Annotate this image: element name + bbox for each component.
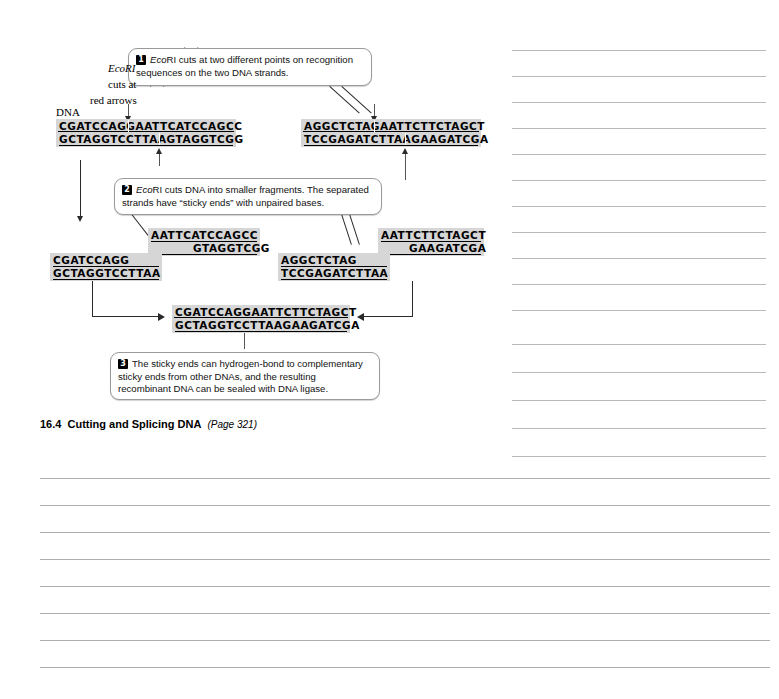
strand-top: AGGCTCTAG — [281, 254, 387, 267]
note-line — [512, 310, 766, 311]
cut-arrow-bottom-left-stem — [159, 152, 160, 166]
process-arrow-down-stem — [80, 160, 81, 218]
note-line — [512, 206, 766, 207]
strand-bottom: GTAGGTCGG — [151, 242, 257, 255]
callout-step-1: 1EcoRI cuts at two different points on r… — [128, 48, 372, 86]
note-line — [40, 667, 770, 668]
step-1-number-badge: 1 — [136, 55, 146, 65]
note-line — [40, 640, 770, 641]
note-line — [40, 559, 770, 560]
intact-dna-left-block: CGATCCAGGAATTCATCCAGCC GCTAGGTCCTTAAGTAG… — [56, 119, 236, 147]
enzyme-note-line-1: EcoRI — [108, 62, 135, 74]
step-2-enzyme-rest: RI — [153, 184, 163, 195]
note-line — [512, 284, 766, 285]
note-line — [40, 586, 770, 587]
cut-arrow-bottom-left-head — [156, 148, 162, 154]
strand-top: AATTCATCCAGCC — [151, 229, 257, 242]
note-line — [512, 344, 766, 345]
step-1-enzyme-rest: RI — [167, 54, 177, 65]
strand-bottom: GAAGATCGA — [381, 242, 481, 255]
note-line — [40, 532, 770, 533]
cut-gap-left-top — [128, 120, 129, 132]
figure-caption: 16.4 Cutting and Splicing DNA (Page 321) — [40, 418, 257, 430]
strand-top: AATTCTTCTAGCT — [381, 229, 481, 242]
cut-gap-left-bottom — [159, 133, 160, 145]
strand-bottom: TCCGAGATCTTAAGAAGATCGA — [304, 133, 478, 146]
join-left-vertical — [92, 281, 93, 317]
step-2-number-badge: 2 — [122, 185, 132, 195]
note-line — [40, 505, 770, 506]
note-line — [512, 50, 766, 51]
enzyme-note-line-2: cuts at — [108, 78, 136, 90]
note-line — [512, 180, 766, 181]
strand-bottom: GCTAGGTCCTTAAGTAGGTCGG — [59, 133, 233, 146]
cut-arrow-bottom-right-head — [402, 148, 408, 154]
strand-bottom: TCCGAGATCTTAA — [281, 267, 387, 280]
fragment-a-block: AATTCATCCAGCC GTAGGTCGG — [148, 228, 260, 256]
note-line — [40, 613, 770, 614]
join-left-horizontal — [92, 316, 160, 317]
strand-bottom: GCTAGGTCCTTAA — [53, 267, 159, 280]
note-line — [512, 372, 766, 373]
caption-title: Cutting and Splicing DNA — [68, 418, 202, 430]
fragment-b-block: CGATCCAGG GCTAGGTCCTTAA — [50, 253, 162, 281]
cut-gap-right-top — [374, 120, 375, 132]
intact-dna-right-divider — [303, 131, 479, 132]
note-line — [512, 456, 766, 457]
dna-label: DNA — [56, 106, 80, 118]
strand-top: CGATCCAGG — [53, 254, 159, 267]
caption-page: (Page 321) — [208, 419, 257, 430]
note-line — [512, 128, 766, 129]
note-line — [512, 258, 766, 259]
callout-step-2: 2EcoRI cuts DNA into smaller fragments. … — [114, 178, 382, 215]
fragment-d-block: AATTCTTCTAGCT GAAGATCGA — [378, 228, 484, 256]
step2-uparrow-stem — [405, 166, 406, 180]
step-2-enzyme-italic: Eco — [136, 184, 153, 195]
caption-number: 16.4 — [40, 418, 61, 430]
note-line — [512, 428, 766, 429]
strand-bottom: GCTAGGTCCTTAAGAAGATCGA — [175, 319, 347, 332]
recombinant-dna-block: CGATCCAGGAATTCTTCTAGCT GCTAGGTCCTTAAGAAG… — [172, 305, 350, 333]
intact-dna-right-block: AGGCTCTAGAATTCTTCTAGCT TCCGAGATCTTAAGAAG… — [301, 119, 481, 147]
fragment-c-block: AGGCTCTAG TCCGAGATCTTAA — [278, 253, 390, 281]
note-line — [512, 76, 766, 77]
enzyme-note-line-3: red arrows — [90, 94, 137, 106]
join-left-arrowhead — [158, 313, 165, 321]
intact-dna-left-divider — [58, 131, 234, 132]
join-right-vertical — [412, 281, 413, 317]
step-3-number-badge: 3 — [118, 359, 128, 369]
process-arrow-down-head — [77, 216, 83, 222]
note-line — [512, 400, 766, 401]
step-3-text: The sticky ends can hydrogen-bond to com… — [118, 358, 363, 394]
step-1-enzyme-italic: Eco — [150, 54, 167, 65]
note-line — [512, 102, 766, 103]
join-right-horizontal — [364, 316, 412, 317]
note-line — [40, 478, 770, 479]
callout-step-3: 3The sticky ends can hydrogen-bond to co… — [110, 352, 380, 400]
note-line — [512, 232, 766, 233]
worksheet-page: 1EcoRI cuts at two different points on r… — [0, 0, 779, 699]
recombinant-divider — [174, 317, 348, 318]
cut-gap-right-bottom — [405, 133, 406, 145]
note-line — [512, 154, 766, 155]
cut-arrow-bottom-right-stem — [405, 152, 406, 166]
callout3-leader-stem — [244, 333, 245, 349]
